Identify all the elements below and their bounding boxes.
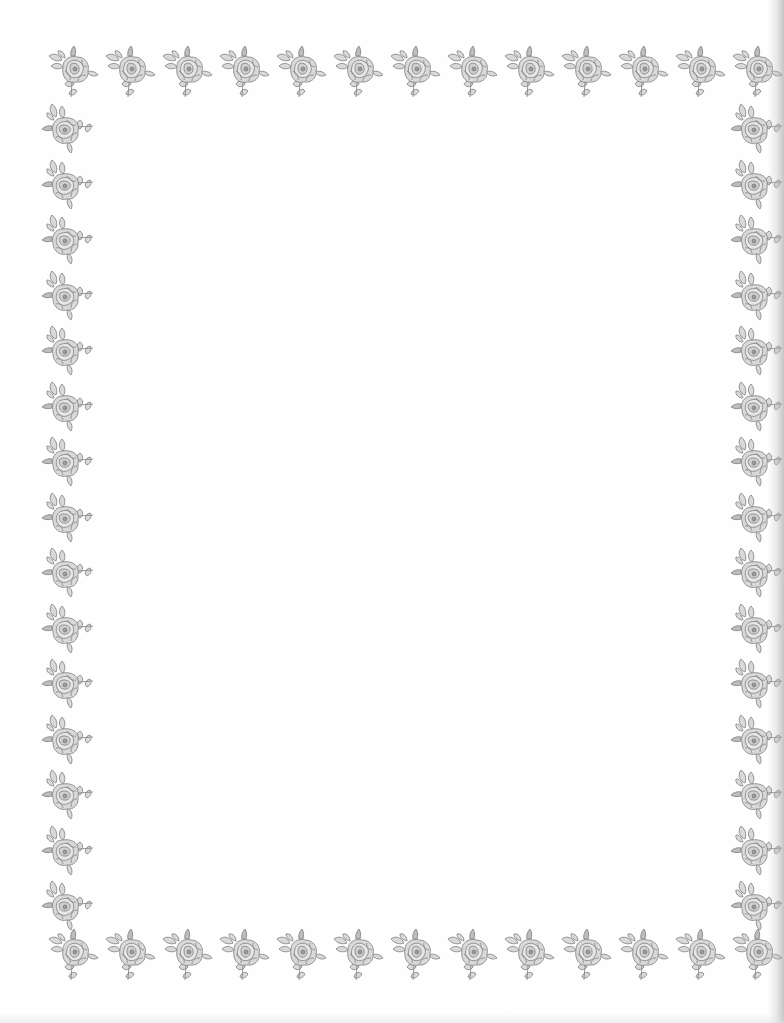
rose-icon xyxy=(615,927,671,983)
rose-icon xyxy=(159,44,215,100)
rose-icon xyxy=(501,927,557,983)
rose-icon xyxy=(387,927,443,983)
rose-icon xyxy=(40,322,96,378)
rose-icon xyxy=(558,44,614,100)
stationery-page xyxy=(0,0,784,1023)
rose-icon xyxy=(40,766,96,822)
rose-icon xyxy=(40,489,96,545)
rose-icon xyxy=(216,927,272,983)
rose-icon xyxy=(273,927,329,983)
rose-icon xyxy=(40,600,96,656)
rose-icon xyxy=(501,44,557,100)
rose-icon xyxy=(40,267,96,323)
rose-icon xyxy=(102,927,158,983)
rose-icon xyxy=(558,927,614,983)
rose-icon xyxy=(40,433,96,489)
rose-icon xyxy=(40,100,96,156)
rose-icon xyxy=(40,877,96,933)
rose-icon xyxy=(387,44,443,100)
rose-icon xyxy=(330,927,386,983)
rose-icon xyxy=(102,44,158,100)
rose-icon xyxy=(40,711,96,767)
blank-writing-area xyxy=(100,100,720,920)
rose-icon xyxy=(615,44,671,100)
rose-icon xyxy=(159,927,215,983)
rose-icon xyxy=(40,156,96,212)
rose-icon xyxy=(330,44,386,100)
page-bottom-shadow xyxy=(0,1013,784,1023)
rose-icon xyxy=(40,822,96,878)
rose-icon xyxy=(672,927,728,983)
rose-icon xyxy=(40,211,96,267)
rose-icon xyxy=(40,378,96,434)
rose-icon xyxy=(672,44,728,100)
rose-icon xyxy=(444,927,500,983)
page-edge-shadow xyxy=(768,0,784,1023)
rose-icon xyxy=(216,44,272,100)
rose-icon xyxy=(273,44,329,100)
rose-icon xyxy=(444,44,500,100)
rose-icon xyxy=(45,44,101,100)
rose-icon xyxy=(45,927,101,983)
rose-icon xyxy=(40,655,96,711)
rose-icon xyxy=(40,544,96,600)
